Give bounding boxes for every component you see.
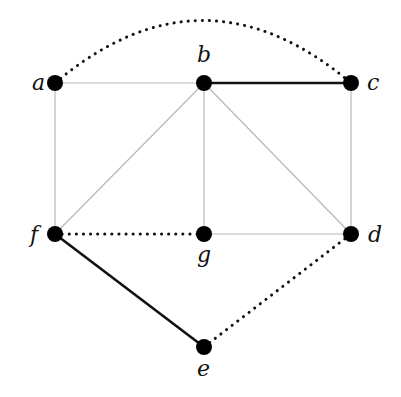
node-g: [196, 226, 212, 242]
node-label-c: c: [367, 70, 379, 95]
node-e: [196, 339, 212, 355]
node-label-d: d: [368, 222, 382, 247]
node-b: [196, 75, 212, 91]
edge-e-d: [204, 234, 351, 347]
edge-b-d: [204, 83, 351, 234]
node-c: [343, 75, 359, 91]
edge-b-f: [55, 83, 204, 234]
node-d: [343, 226, 359, 242]
node-label-b: b: [197, 42, 211, 67]
graph-diagram: abcdefg: [0, 0, 401, 397]
node-label-f: f: [28, 222, 42, 247]
node-label-a: a: [32, 70, 45, 95]
node-label-g: g: [197, 242, 211, 267]
node-a: [47, 75, 63, 91]
node-f: [47, 226, 63, 242]
node-label-e: e: [197, 356, 210, 381]
edge-f-e: [55, 234, 204, 347]
